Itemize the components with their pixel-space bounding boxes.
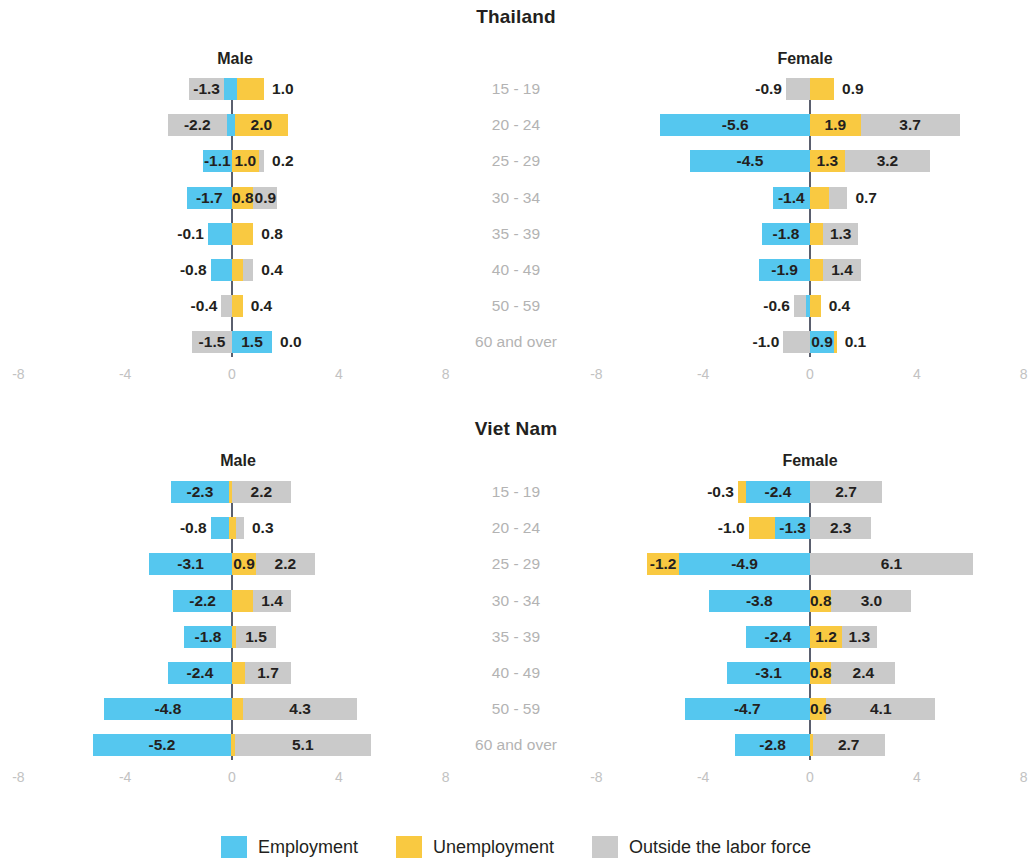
bar-value-label: 3.0 <box>831 590 911 612</box>
legend-swatch-emp <box>221 836 247 858</box>
bar-value-label: -3.8 <box>709 590 810 612</box>
bar-value-label: -5.6 <box>660 114 810 136</box>
bar-value-label: 0.1 <box>845 331 887 353</box>
bar-value-label: -0.6 <box>748 295 790 317</box>
bar-value-label: 1.3 <box>842 626 877 648</box>
bar-value-label: 1.4 <box>823 259 860 281</box>
bar-value-label: -1.8 <box>762 223 810 245</box>
panel-title-vietnam-male: Male <box>168 452 308 470</box>
age-group-label: 35 - 39 <box>416 626 616 648</box>
bar-segment-unemp[interactable] <box>738 481 746 503</box>
bar-value-label: 4.1 <box>826 698 935 720</box>
age-group-label: 50 - 59 <box>416 295 616 317</box>
bar-segment-unemp[interactable] <box>810 187 829 209</box>
age-group-label: 60 and over <box>416 734 616 756</box>
bar-value-label: -1.4 <box>773 187 810 209</box>
age-group-label: 15 - 19 <box>416 481 616 503</box>
legend-swatch-unemp <box>396 836 422 858</box>
bar-value-label: 2.4 <box>831 662 895 684</box>
bar-value-label: -1.9 <box>759 259 810 281</box>
bar-value-label: 0.9 <box>842 78 884 100</box>
bar-segment-unemp[interactable] <box>810 78 834 100</box>
axis-tick-label: -4 <box>683 366 723 382</box>
bar-value-label: 3.2 <box>845 150 930 172</box>
bar-segment-unemp[interactable] <box>810 223 823 245</box>
bar-value-label: 0.6 <box>810 698 826 720</box>
bar-segment-out[interactable] <box>786 78 810 100</box>
x-axis-thailand-female: -8-4048 <box>0 366 1032 386</box>
legend-swatch-out <box>592 836 618 858</box>
bar-value-label: -1.0 <box>737 331 779 353</box>
panel-title-thailand-male: Male <box>165 50 305 68</box>
country-title-thailand: Thailand <box>0 6 1032 28</box>
bar-value-label: -2.4 <box>746 626 810 648</box>
legend-item[interactable]: Outside the labor force <box>592 836 811 858</box>
bar-value-label: -4.7 <box>685 698 810 720</box>
axis-tick-label: -8 <box>576 366 616 382</box>
legend: EmploymentUnemploymentOutside the labor … <box>0 836 1032 858</box>
age-group-label: 25 - 29 <box>416 553 616 575</box>
bar-value-label: -4.9 <box>679 553 810 575</box>
bar-value-label: -0.3 <box>692 481 734 503</box>
bar-value-label: -4.5 <box>690 150 810 172</box>
country-title-vietnam: Viet Nam <box>0 418 1032 440</box>
age-group-label: 40 - 49 <box>416 662 616 684</box>
age-group-label: 20 - 24 <box>416 114 616 136</box>
bar-value-label: -2.8 <box>735 734 810 756</box>
bar-segment-unemp[interactable] <box>834 331 837 353</box>
bar-value-label: -0.9 <box>740 78 782 100</box>
bar-value-label: -2.4 <box>746 481 810 503</box>
bar-value-label: 0.8 <box>810 662 831 684</box>
axis-tick-label: 8 <box>1004 769 1032 785</box>
bar-value-label: -1.2 <box>647 553 679 575</box>
bar-value-label: 6.1 <box>810 553 973 575</box>
panel-title-vietnam-female: Female <box>740 452 880 470</box>
bar-value-label: 1.2 <box>810 626 842 648</box>
bar-value-label: -1.3 <box>775 517 810 539</box>
age-group-label: 30 - 34 <box>416 187 616 209</box>
axis-tick-label: -4 <box>683 769 723 785</box>
axis-tick-label: 4 <box>897 769 937 785</box>
axis-tick-label: 8 <box>1004 366 1032 382</box>
bar-value-label: 1.3 <box>810 150 845 172</box>
legend-label: Unemployment <box>433 837 554 858</box>
bar-value-label: 0.7 <box>855 187 897 209</box>
chart-root: Thailand Male Female -1.31.0-2.22.0-1.11… <box>0 0 1032 864</box>
age-group-label: 15 - 19 <box>416 78 616 100</box>
panel-title-thailand-female: Female <box>735 50 875 68</box>
bar-segment-out[interactable] <box>829 187 848 209</box>
bar-value-label: -3.1 <box>727 662 810 684</box>
bar-value-label: 0.9 <box>810 331 834 353</box>
axis-tick-label: -8 <box>576 769 616 785</box>
bar-value-label: 1.9 <box>810 114 861 136</box>
bar-segment-out[interactable] <box>794 295 806 317</box>
age-group-label: 40 - 49 <box>416 259 616 281</box>
bar-value-label: 3.7 <box>861 114 960 136</box>
age-group-label: 35 - 39 <box>416 223 616 245</box>
age-group-label: 20 - 24 <box>416 517 616 539</box>
bar-segment-unemp[interactable] <box>810 259 823 281</box>
axis-tick-label: 0 <box>790 769 830 785</box>
age-group-label: 30 - 34 <box>416 590 616 612</box>
bar-value-label: 2.3 <box>810 517 871 539</box>
bar-value-label: 0.4 <box>829 295 871 317</box>
x-axis-vietnam-female: -8-4048 <box>0 769 1032 789</box>
bar-value-label: -1.0 <box>703 517 745 539</box>
legend-label: Employment <box>258 837 358 858</box>
legend-item[interactable]: Unemployment <box>396 836 554 858</box>
axis-tick-label: 4 <box>897 366 937 382</box>
age-group-label: 25 - 29 <box>416 150 616 172</box>
bar-segment-unemp[interactable] <box>749 517 776 539</box>
legend-item[interactable]: Employment <box>221 836 358 858</box>
legend-label: Outside the labor force <box>629 837 811 858</box>
bar-value-label: 2.7 <box>810 481 882 503</box>
age-group-label: 50 - 59 <box>416 698 616 720</box>
bar-value-label: 0.8 <box>810 590 831 612</box>
age-group-label: 60 and over <box>416 331 616 353</box>
bar-value-label: 1.3 <box>823 223 858 245</box>
bar-segment-out[interactable] <box>783 331 810 353</box>
bar-segment-unemp[interactable] <box>810 295 821 317</box>
bar-value-label: 2.7 <box>813 734 885 756</box>
axis-tick-label: 0 <box>790 366 830 382</box>
